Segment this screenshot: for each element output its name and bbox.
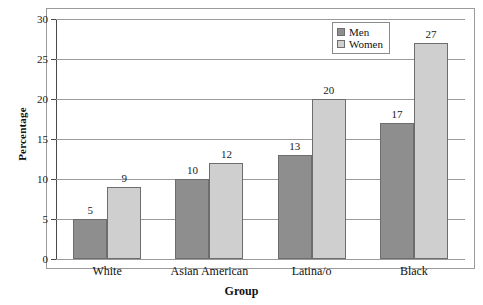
y-axis-tick-label: 0 [8, 254, 48, 265]
legend-item: Women [337, 38, 383, 50]
bar [414, 43, 448, 259]
bar [380, 123, 414, 259]
y-axis-title: Percentage [16, 89, 28, 179]
bar [312, 99, 346, 259]
y-axis-tick-label: 25 [8, 54, 48, 65]
gridline [56, 259, 465, 260]
bar-value-label: 27 [411, 29, 451, 40]
y-axis-tick-label: 10 [8, 174, 48, 185]
bar-value-label: 20 [309, 85, 349, 96]
y-axis-tick-label: 20 [8, 94, 48, 105]
bar-value-label: 17 [377, 109, 417, 120]
legend-swatch-icon [337, 40, 345, 48]
bar [278, 155, 312, 259]
bar-value-label: 10 [172, 165, 212, 176]
bar-series-container: 59101213201727 [56, 19, 465, 259]
plot-area: 59101213201727 [56, 19, 465, 259]
bar-value-label: 9 [104, 173, 144, 184]
bar [73, 219, 107, 259]
bar [209, 163, 243, 259]
legend-item: Men [337, 26, 383, 38]
y-axis-tick-label: 15 [8, 134, 48, 145]
bar [175, 179, 209, 259]
x-axis-title: Group [0, 284, 483, 299]
bar [107, 187, 141, 259]
bar-value-label: 13 [275, 141, 315, 152]
bar-value-label: 12 [206, 149, 246, 160]
y-axis-tick-label: 5 [8, 214, 48, 225]
legend-label: Women [349, 38, 383, 50]
y-axis-tick-label: 30 [8, 14, 48, 25]
legend-swatch-icon [337, 28, 345, 36]
legend: MenWomen [332, 22, 390, 54]
x-axis-category-label: Black [344, 265, 483, 277]
bar-value-label: 5 [70, 205, 110, 216]
legend-label: Men [349, 26, 369, 38]
